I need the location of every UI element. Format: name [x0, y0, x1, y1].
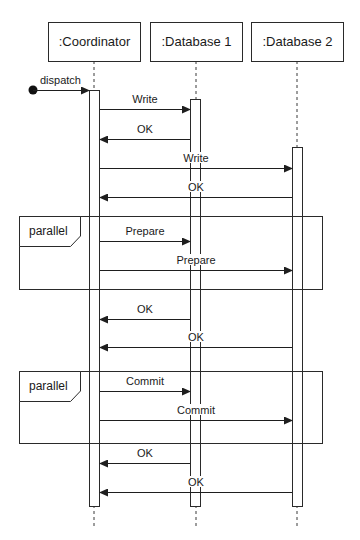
message-ok-db1: OK [100, 123, 190, 140]
fragment-operator-label: parallel [29, 224, 68, 238]
message-label: dispatch [40, 74, 81, 86]
message-label: Commit [177, 404, 215, 416]
message-label: Prepare [125, 225, 164, 237]
participant-coordinator: :Coordinator [49, 23, 141, 62]
participant-database-2: :Database 2 [252, 23, 344, 62]
activation-database-2 [293, 148, 303, 507]
message-label: OK [188, 181, 205, 193]
message-label: Write [132, 93, 157, 105]
message-write-db1: Write [100, 93, 190, 110]
participant-label: :Coordinator [59, 34, 131, 49]
fragment-parallel-prepare: parallel [20, 217, 323, 290]
fragment-parallel-commit: parallel [20, 372, 323, 444]
participant-label: :Database 2 [262, 34, 332, 49]
participant-database-1: :Database 1 [151, 23, 243, 62]
sequence-diagram: :Coordinator :Database 1 :Database 2 dis… [0, 0, 360, 540]
activation-coordinator [90, 91, 100, 507]
message-ok-db1-prepare: OK [100, 303, 190, 320]
message-label: OK [137, 447, 154, 459]
participant-label: :Database 1 [161, 34, 231, 49]
message-label: OK [137, 303, 154, 315]
found-message-dispatch: dispatch [29, 74, 90, 95]
message-label: OK [137, 123, 154, 135]
message-label: OK [188, 331, 205, 343]
message-ok-db1-commit: OK [100, 447, 190, 464]
message-label: Commit [126, 375, 164, 387]
fragment-operator-label: parallel [29, 379, 68, 393]
message-prepare-db1: Prepare [100, 225, 190, 242]
message-label: Prepare [176, 254, 215, 266]
message-label: Write [183, 152, 208, 164]
message-commit-db1: Commit [100, 375, 190, 392]
message-label: OK [188, 476, 205, 488]
